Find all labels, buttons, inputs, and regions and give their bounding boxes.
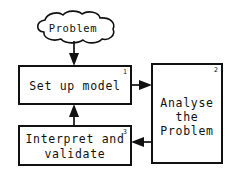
arrow-box3-to-box1-head (69, 104, 79, 117)
box-2-label-line-1: Analyse (160, 96, 213, 110)
diagram-canvas: Problem 1 Set up model 2 Analyse the Pro… (0, 0, 244, 179)
arrow-cloud-to-box1 (69, 41, 79, 66)
box-3-label-line-1: Interpret and (25, 132, 124, 146)
arrow-box1-to-box2 (131, 80, 152, 90)
arrow-box1-to-box2-head (139, 80, 152, 90)
box-2-label-line-2: the (176, 110, 199, 124)
node-box-set-up-model[interactable]: 1 Set up model (19, 66, 131, 104)
node-box-interpret-and-validate[interactable]: 3 Interpret and validate (19, 126, 131, 165)
arrow-box3-to-box1 (69, 104, 79, 126)
box-1-number: 1 (123, 68, 127, 76)
box-1-label-line-1: Set up model (29, 79, 120, 93)
box-2-number: 2 (214, 66, 218, 74)
arrow-cloud-to-box1-head (69, 53, 79, 66)
arrow-box2-to-box3-head (131, 137, 144, 147)
node-box-analyse-the-problem[interactable]: 2 Analyse the Problem (152, 64, 222, 163)
box-2-label-line-3: Problem (160, 124, 213, 138)
box-3-label-line-2: validate (45, 147, 106, 161)
node-problem-cloud[interactable]: Problem (38, 11, 114, 43)
cloud-label: Problem (49, 22, 97, 34)
arrow-box2-to-box3 (131, 137, 152, 147)
flowchart-diagram: Problem 1 Set up model 2 Analyse the Pro… (0, 0, 244, 179)
